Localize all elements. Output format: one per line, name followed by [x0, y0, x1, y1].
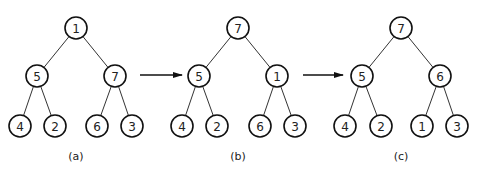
node-label: 1: [72, 22, 80, 36]
tree-node: 4: [171, 115, 193, 137]
tree-edge: [366, 86, 377, 115]
node-label: 5: [195, 70, 203, 84]
node-label: 4: [341, 120, 349, 134]
heap-diagram: 157426375142637564213 (a)(b)(c): [0, 0, 482, 170]
tree-node: 2: [206, 115, 228, 137]
node-label: 6: [93, 120, 101, 134]
tree-caption-c: (c): [394, 150, 409, 163]
node-label: 4: [16, 120, 24, 134]
node-label: 3: [291, 120, 299, 134]
node-label: 2: [377, 120, 385, 134]
tree-node: 6: [249, 115, 271, 137]
tree-caption-b: (b): [230, 150, 246, 163]
tree-edge: [44, 37, 69, 68]
tree-node: 5: [188, 65, 210, 87]
node-label: 3: [128, 120, 136, 134]
tree-node: 1: [65, 17, 87, 39]
tree-a: 1574263: [9, 17, 143, 137]
tree-edge: [444, 86, 454, 115]
tree-node: 3: [121, 115, 143, 137]
tree-edge: [41, 86, 52, 115]
tree-edge: [119, 86, 129, 115]
tree-node: 7: [104, 65, 126, 87]
node-label: 7: [111, 70, 119, 84]
node-label: 5: [33, 70, 41, 84]
node-label: 6: [256, 120, 264, 134]
node-label: 7: [397, 22, 405, 36]
edges-layer: [24, 37, 454, 116]
tree-edge: [203, 86, 214, 115]
tree-node: 7: [390, 17, 412, 39]
tree-node: 3: [284, 115, 306, 137]
tree-edge: [426, 86, 437, 115]
tree-node: 5: [26, 65, 48, 87]
tree-caption-a: (a): [68, 150, 83, 163]
tree-node: 6: [429, 65, 451, 87]
node-label: 1: [418, 120, 426, 134]
tree-c: 7564213: [334, 17, 468, 137]
node-label: 6: [436, 70, 444, 84]
tree-edge: [186, 86, 196, 115]
tree-edge: [206, 37, 231, 68]
heap-diagram-svg: 157426375142637564213 (a)(b)(c): [0, 0, 482, 170]
tree-node: 4: [334, 115, 356, 137]
node-label: 4: [178, 120, 186, 134]
tree-edge: [408, 37, 433, 68]
node-label: 2: [51, 120, 59, 134]
tree-node: 1: [266, 65, 288, 87]
tree-edge: [101, 86, 112, 115]
tree-node: 5: [351, 65, 373, 87]
node-label: 3: [453, 120, 461, 134]
tree-node: 1: [411, 115, 433, 137]
captions-layer: (a)(b)(c): [68, 150, 408, 163]
node-label: 2: [213, 120, 221, 134]
tree-edge: [83, 37, 108, 68]
tree-b: 7514263: [171, 17, 306, 137]
tree-edge: [369, 37, 394, 68]
node-label: 5: [358, 70, 366, 84]
nodes-layer: 157426375142637564213: [9, 17, 468, 137]
tree-edge: [349, 86, 359, 115]
tree-edge: [245, 37, 270, 68]
tree-edge: [281, 86, 292, 115]
node-label: 7: [234, 22, 242, 36]
tree-node: 7: [227, 17, 249, 39]
tree-edge: [264, 86, 274, 115]
tree-node: 2: [44, 115, 66, 137]
tree-node: 6: [86, 115, 108, 137]
tree-node: 3: [446, 115, 468, 137]
tree-node: 4: [9, 115, 31, 137]
tree-edge: [24, 86, 34, 115]
node-label: 1: [273, 70, 281, 84]
tree-node: 2: [370, 115, 392, 137]
